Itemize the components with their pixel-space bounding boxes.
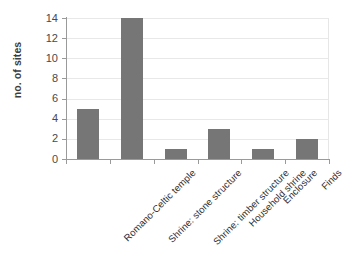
bar (252, 149, 274, 159)
x-tick-mark (329, 160, 330, 164)
x-axis-category-label: Finds (319, 167, 344, 192)
x-tick-mark (154, 160, 155, 164)
y-tick-mark (62, 38, 66, 39)
y-tick-mark (62, 58, 66, 59)
y-axis-line (66, 17, 67, 160)
y-tick-mark (62, 139, 66, 140)
y-tick-label: 10 (18, 53, 58, 64)
bar (296, 139, 318, 159)
x-tick-mark (198, 160, 199, 164)
y-tick-label: 4 (18, 113, 58, 124)
x-tick-mark (110, 160, 111, 164)
y-tick-label: 0 (18, 154, 58, 165)
bar (77, 109, 99, 159)
bar (121, 18, 143, 159)
y-tick-label: 14 (18, 13, 58, 24)
y-tick-label: 6 (18, 93, 58, 104)
y-tick-label: 12 (18, 33, 58, 44)
plot-area (66, 18, 329, 159)
gridline (66, 18, 329, 19)
y-tick-label: 2 (18, 133, 58, 144)
bar (165, 149, 187, 159)
gridline (66, 139, 329, 140)
bar (208, 129, 230, 159)
x-tick-mark (241, 160, 242, 164)
gridline (66, 99, 329, 100)
y-tick-mark (62, 119, 66, 120)
y-tick-mark (62, 99, 66, 100)
x-tick-mark (66, 160, 67, 164)
x-axis-category-label-text: Finds (319, 167, 344, 192)
gridline (66, 58, 329, 59)
gridline (66, 78, 329, 79)
y-tick-mark (62, 18, 66, 19)
gridline (66, 38, 329, 39)
y-tick-mark (62, 78, 66, 79)
y-tick-label: 8 (18, 73, 58, 84)
plot-frame-right-border (328, 18, 329, 159)
gridline (66, 119, 329, 120)
x-tick-mark (285, 160, 286, 164)
